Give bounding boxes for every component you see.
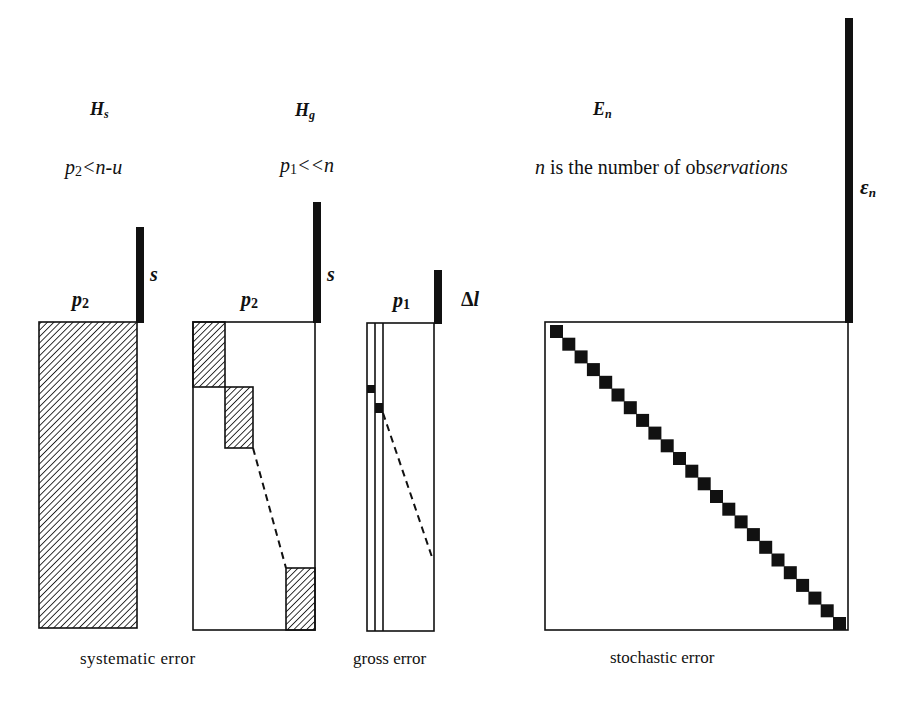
gross-condition: p1<<n — [278, 154, 334, 177]
diagonal-block — [612, 389, 625, 402]
diagonal-block — [587, 363, 600, 376]
hatched-block-last — [286, 568, 315, 630]
diagonal-block — [673, 452, 686, 465]
gross-error-caption: gross error — [353, 649, 427, 668]
hatched-systematic-matrix — [39, 322, 137, 628]
hg-title: Hg — [294, 100, 315, 122]
diagonal-block — [636, 414, 649, 427]
error-model-diagram: Hs p2<n-u p2 s systematic error Hg p1<<n… — [0, 0, 899, 704]
diagonal-block — [562, 338, 575, 351]
diagonal-block — [772, 554, 785, 567]
systematic-error-caption: systematic error — [80, 649, 195, 668]
diagonal-block — [747, 528, 760, 541]
diagonal-block — [698, 477, 711, 490]
gross-error-single-panel: p1 Δl gross error — [353, 270, 480, 668]
diagonal-block — [550, 325, 563, 338]
continuation-dashed-line — [253, 448, 286, 568]
diagonal-block — [575, 350, 588, 363]
diagonal-block — [710, 490, 723, 503]
diagonal-block — [833, 617, 846, 630]
gross-element-1 — [367, 385, 375, 393]
diagonal-block — [624, 401, 637, 414]
diagonal-block — [722, 503, 735, 516]
diagonal-block — [808, 592, 821, 605]
diagonal-block — [796, 579, 809, 592]
hs-title: Hs — [89, 99, 109, 121]
p2-column-label: p2 — [239, 288, 258, 311]
delta-l-bar-label: Δl — [461, 288, 480, 310]
systematic-error-panel: Hs p2<n-u p2 s systematic error — [39, 99, 195, 668]
gross-element-2 — [375, 403, 383, 413]
p1-column-label: p1 — [391, 289, 410, 312]
s-bar — [313, 202, 321, 323]
continuation-dashed-line — [383, 413, 433, 560]
stochastic-error-caption: stochastic error — [610, 648, 715, 667]
s-bar — [136, 227, 144, 323]
diagonal-block — [784, 566, 797, 579]
diagonal-block — [648, 427, 661, 440]
epsilon-n-bar-label: εn — [860, 175, 876, 200]
diagonal-blocks — [550, 325, 846, 630]
single-matrix-outline — [367, 323, 434, 631]
s-bar-label: s — [326, 263, 335, 285]
gross-error-block-panel: Hg p1<<n p2 s — [193, 100, 335, 630]
diagonal-block — [661, 439, 674, 452]
en-title: En — [592, 99, 612, 121]
diagonal-block — [735, 515, 748, 528]
diagonal-block — [685, 465, 698, 478]
systematic-condition: p2<n-u — [63, 156, 122, 179]
stochastic-error-panel: En n is the number of observations εn st… — [535, 18, 876, 667]
hatched-block-2 — [225, 387, 253, 448]
diagonal-block — [599, 376, 612, 389]
p2-column-label: p2 — [70, 288, 89, 311]
hatched-block-1 — [193, 322, 225, 387]
diagonal-block — [759, 541, 772, 554]
observations-note: n is the number of observations — [535, 156, 788, 178]
diagonal-block — [821, 604, 834, 617]
epsilon-n-bar — [845, 18, 853, 323]
s-bar-label: s — [149, 263, 158, 285]
delta-l-bar — [434, 270, 442, 324]
